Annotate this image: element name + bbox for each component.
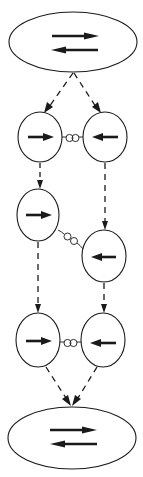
row3-right-sphere: [81, 313, 125, 367]
top-ellipse: [9, 12, 137, 72]
dashed-arrows-row1-row2: [37, 163, 108, 230]
bottom-ellipse: [8, 407, 136, 469]
spring-icon: [60, 339, 81, 346]
right-arrow-icon: [28, 133, 54, 141]
left-arrow-icon: [90, 339, 116, 347]
row1-right-sphere: [83, 112, 127, 162]
spring-coupled-sphere-diagram: [0, 0, 143, 477]
right-arrow-icon: [26, 211, 52, 219]
left-arrow-icon: [50, 441, 97, 448]
row2-right-sphere: [82, 230, 126, 282]
dashed-arrows-row2-row3: [35, 242, 107, 313]
right-arrow-icon: [50, 427, 97, 434]
dashed-arrows-top: [44, 73, 101, 113]
spring-icon: [62, 134, 83, 141]
left-arrow-icon: [51, 47, 98, 54]
spring-icon: [58, 230, 83, 249]
left-arrow-icon: [92, 133, 118, 141]
dashed-arrows-bottom: [46, 367, 97, 406]
right-arrow-icon: [52, 33, 99, 40]
row1-left-sphere: [18, 112, 62, 162]
left-arrow-icon: [91, 253, 116, 261]
row3-left-sphere: [16, 313, 60, 367]
row2-left-sphere: [17, 189, 59, 241]
right-arrow-icon: [26, 337, 52, 345]
